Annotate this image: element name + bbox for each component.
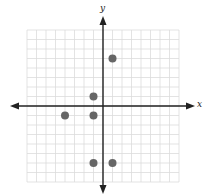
y-axis-up-arrow-icon xyxy=(100,16,107,25)
x-axis-label: x xyxy=(197,99,202,109)
coordinate-plane xyxy=(0,0,205,196)
y-axis-down-arrow-icon xyxy=(100,185,107,194)
data-point xyxy=(109,55,117,63)
data-point xyxy=(109,159,117,167)
data-point xyxy=(90,112,98,120)
y-axis-label: y xyxy=(100,3,105,13)
data-point xyxy=(90,159,98,167)
x-axis-left-arrow-icon xyxy=(10,103,19,110)
x-axis-right-arrow-icon xyxy=(186,103,195,110)
data-point xyxy=(90,93,98,101)
axes xyxy=(10,16,195,194)
data-points xyxy=(61,55,117,168)
data-point xyxy=(61,112,69,120)
